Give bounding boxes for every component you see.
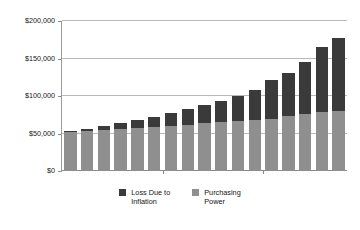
bar-segment-purchasing-power (265, 119, 277, 172)
bar-segment-loss-due-to-inflation (198, 105, 210, 123)
bar-segment-purchasing-power (249, 120, 261, 171)
bar-segment-purchasing-power (165, 126, 177, 171)
bar-column (81, 21, 93, 171)
bar-segment-loss-due-to-inflation (81, 129, 93, 131)
square-swatch-icon (119, 189, 126, 196)
bar-column (332, 21, 344, 171)
bar-column (114, 21, 126, 171)
y-axis-tick-label: $0 (0, 167, 55, 175)
bar-column (131, 21, 143, 171)
bar-segment-purchasing-power (114, 129, 126, 171)
y-axis-line (61, 21, 62, 172)
bar-column (148, 21, 160, 171)
bar-segment-loss-due-to-inflation (165, 113, 177, 126)
y-axis-tick-label: $100,000 (0, 92, 55, 100)
bar-column (215, 21, 227, 171)
bar-segment-purchasing-power (316, 112, 328, 171)
bar-segment-loss-due-to-inflation (131, 120, 143, 128)
bar-segment-purchasing-power (299, 114, 311, 171)
bar-column (299, 21, 311, 171)
bar-segment-loss-due-to-inflation (98, 126, 110, 130)
bar-segment-purchasing-power (81, 131, 93, 171)
bar-segment-loss-due-to-inflation (182, 109, 194, 124)
bar-column (198, 21, 210, 171)
bar-segment-loss-due-to-inflation (299, 62, 311, 115)
plot-area (62, 21, 347, 171)
bar-segment-loss-due-to-inflation (232, 96, 244, 121)
bar-column (64, 21, 76, 171)
bar-segment-loss-due-to-inflation (316, 47, 328, 113)
bar-segment-loss-due-to-inflation (64, 131, 76, 132)
bar-segment-purchasing-power (98, 130, 110, 171)
bar-segment-purchasing-power (148, 127, 160, 171)
bar-column (232, 21, 244, 171)
bar-segment-loss-due-to-inflation (265, 80, 277, 118)
bar-segment-loss-due-to-inflation (215, 101, 227, 122)
bar-segment-purchasing-power (131, 128, 143, 171)
bar-segment-loss-due-to-inflation (114, 123, 126, 129)
bar-segment-purchasing-power (215, 122, 227, 171)
square-swatch-icon (192, 189, 199, 196)
legend-item-label: Loss Due to Inflation (131, 188, 170, 206)
bar-segment-purchasing-power (64, 132, 76, 171)
bar-segment-purchasing-power (332, 111, 344, 171)
y-axis-tick-label: $50,000 (0, 130, 55, 138)
bar-segment-purchasing-power (182, 125, 194, 172)
bar-segment-purchasing-power (232, 121, 244, 171)
legend-item[interactable]: Purchasing Power (192, 188, 241, 206)
chart-legend: Loss Due to InflationPurchasing Power (0, 188, 360, 206)
bar-column (165, 21, 177, 171)
x-axis-tick-mark (263, 171, 264, 174)
bar-segment-purchasing-power (198, 123, 210, 171)
bar-column (249, 21, 261, 171)
stacked-bar-chart: $200,000$150,000$100,000$50,000$0 Loss D… (0, 0, 360, 230)
bar-segment-loss-due-to-inflation (148, 117, 160, 128)
bar-column (316, 21, 328, 171)
bar-segment-loss-due-to-inflation (282, 73, 294, 117)
bar-segment-loss-due-to-inflation (249, 90, 261, 120)
legend-item[interactable]: Loss Due to Inflation (119, 188, 170, 206)
bar-column (98, 21, 110, 171)
y-axis-tick-label: $200,000 (0, 17, 55, 25)
bar-column (265, 21, 277, 171)
x-axis-tick-mark (163, 171, 164, 174)
legend-item-label: Purchasing Power (204, 188, 241, 206)
bar-column (182, 21, 194, 171)
bar-segment-loss-due-to-inflation (332, 38, 344, 110)
bar-segment-purchasing-power (282, 116, 294, 171)
y-axis-tick-label: $150,000 (0, 55, 55, 63)
bar-column (282, 21, 294, 171)
